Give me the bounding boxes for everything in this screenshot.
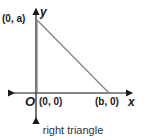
diagram-caption: right triangle [0,124,146,136]
point-label-apex: (0, a) [2,13,25,24]
triangle-hypotenuse [37,20,109,93]
y-axis-label: y [40,5,47,19]
origin-label: O [25,94,35,109]
x-axis-label: x [128,95,135,109]
point-label-origin: (0, 0) [39,96,62,107]
point-label-base: (b, 0) [95,96,119,107]
